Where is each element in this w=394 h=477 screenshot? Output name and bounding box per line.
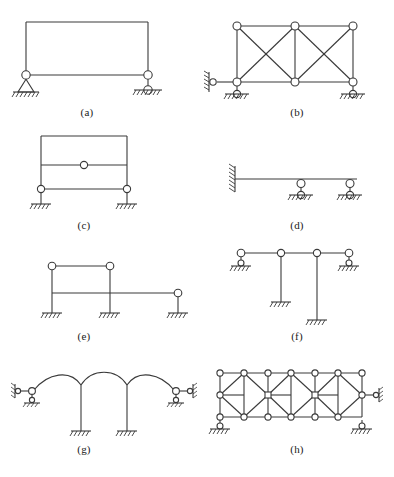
panel-h-caption: (h) (267, 443, 327, 455)
fixed-support-middle (99, 313, 120, 318)
fixed-support-left (41, 313, 62, 318)
panel-b-caption: (b) (267, 106, 327, 118)
panel-b-diagram (197, 4, 394, 104)
roller-support-right (337, 180, 362, 201)
frame-members (26, 22, 148, 75)
hinge-nodes (37, 161, 130, 192)
fixed-support-column-two (306, 320, 327, 325)
arch-members (34, 372, 174, 431)
panel-a-caption: (a) (57, 106, 117, 118)
hinge-nodes (48, 262, 182, 297)
beam-member (241, 253, 349, 320)
panel-h-diagram (197, 355, 394, 455)
link-roller-support-left (204, 71, 249, 99)
roller-support-right (340, 86, 365, 99)
frame-members (41, 136, 127, 204)
fixed-support-right (167, 313, 188, 318)
roller-support-middle (288, 180, 313, 201)
panel-g-caption: (g) (54, 443, 114, 455)
panel-a-diagram (0, 4, 197, 104)
panel-e-caption: (e) (54, 330, 114, 342)
fixed-support-left-column (70, 431, 91, 436)
truss-chords (237, 26, 353, 82)
fixed-support-column-one (270, 302, 291, 307)
inclined-roller-support-right (338, 257, 359, 271)
inclined-roller-support-left (230, 257, 251, 271)
link-roller-support-right (351, 387, 383, 434)
panel-d-diagram (197, 128, 394, 218)
panel-c-diagram (0, 128, 197, 218)
fixed-support-left (30, 204, 51, 209)
pin-support-left (12, 79, 39, 97)
link-roller-support-left (11, 383, 40, 407)
fixed-wall-support-left (229, 164, 235, 192)
panel-d-caption: (d) (267, 219, 327, 231)
panel-c-caption: (c) (54, 219, 114, 231)
panel-f-diagram (197, 240, 394, 330)
structural-figure-sheet: (a) (0, 0, 394, 477)
panel-f-caption: (f) (267, 330, 327, 342)
roller-support-right (133, 79, 162, 95)
panel-e-diagram (0, 240, 197, 330)
fixed-support-right (116, 204, 137, 209)
frame-members (52, 266, 178, 313)
roller-support-left (209, 420, 230, 434)
fixed-support-right-column (116, 431, 137, 436)
panel-g-diagram (0, 355, 197, 455)
hinge-nodes (29, 388, 180, 395)
